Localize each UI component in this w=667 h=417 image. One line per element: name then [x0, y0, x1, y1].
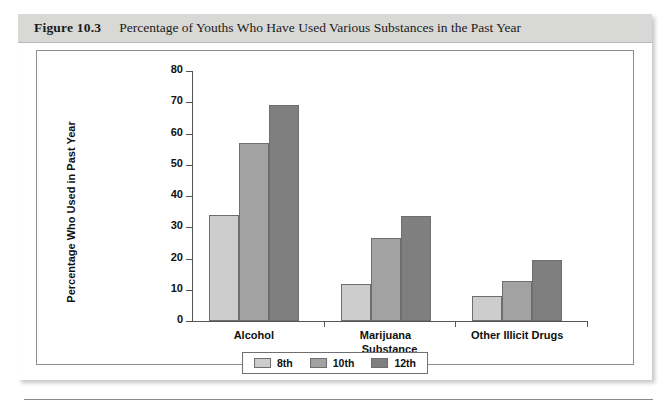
figure-caption: Figure 10.3Percentage of Youths Who Have… — [34, 20, 521, 36]
legend-item[interactable]: 8th — [254, 357, 293, 369]
y-tick-mark — [186, 134, 192, 135]
figure-number: Figure 10.3 — [34, 20, 101, 35]
page-divider-rule — [24, 399, 653, 400]
bar — [532, 260, 562, 321]
chart-plot-frame: Percentage Who Used in Past Year Substan… — [36, 50, 634, 365]
y-tick-mark — [186, 165, 192, 166]
y-tick-label: 50 — [171, 157, 183, 169]
y-tick-mark — [186, 71, 192, 72]
x-tick-mark — [324, 321, 325, 327]
chart-axes: 01020304050607080 AlcoholMarijuanaOther … — [192, 71, 587, 321]
y-tick-label: 10 — [171, 282, 183, 294]
y-tick-mark — [186, 102, 192, 103]
legend-item[interactable]: 12th — [371, 357, 416, 369]
y-tick-mark — [186, 321, 192, 322]
figure-title: Percentage of Youths Who Have Used Vario… — [119, 20, 521, 35]
y-tick-mark — [186, 227, 192, 228]
y-tick-mark — [186, 259, 192, 260]
y-axis-title: Percentage Who Used in Past Year — [65, 87, 79, 337]
x-tick-mark-end — [587, 321, 588, 327]
bar — [472, 296, 502, 321]
y-tick-mark — [186, 196, 192, 197]
bar — [502, 281, 532, 321]
bar — [341, 284, 371, 322]
y-tick-label: 80 — [171, 63, 183, 75]
bar-group — [341, 71, 431, 321]
bar-group — [472, 71, 562, 321]
category-label: Other Illicit Drugs — [432, 329, 602, 341]
y-tick-label: 70 — [171, 94, 183, 106]
y-axis-line — [192, 71, 193, 321]
y-tick-label: 60 — [171, 126, 183, 138]
bar — [239, 143, 269, 321]
chart-legend: 8th10th12th — [242, 352, 428, 374]
bar — [371, 238, 401, 321]
y-tick-label: 40 — [171, 188, 183, 200]
bar-group — [209, 71, 299, 321]
legend-label: 8th — [277, 357, 293, 369]
y-tick-label: 30 — [171, 219, 183, 231]
x-axis-line — [192, 321, 587, 322]
legend-label: 12th — [394, 357, 416, 369]
y-tick-label: 0 — [177, 313, 183, 325]
legend-swatch — [254, 358, 271, 368]
legend-item[interactable]: 10th — [310, 357, 355, 369]
bar — [209, 215, 239, 321]
bar — [401, 216, 431, 321]
legend-label: 10th — [333, 357, 355, 369]
x-tick-mark — [455, 321, 456, 327]
legend-swatch — [310, 358, 327, 368]
y-tick-label: 20 — [171, 251, 183, 263]
figure-card: Figure 10.3Percentage of Youths Who Have… — [18, 14, 652, 380]
legend-swatch — [371, 358, 388, 368]
figure-caption-bar: Figure 10.3Percentage of Youths Who Have… — [18, 14, 652, 43]
y-tick-mark — [186, 290, 192, 291]
bar — [269, 105, 299, 321]
